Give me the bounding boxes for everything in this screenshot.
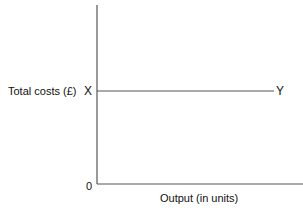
y-axis-label: Total costs (£)	[8, 85, 76, 97]
point-y-label: Y	[276, 85, 284, 97]
x-axis-label: Output (in units)	[160, 192, 238, 204]
point-x-label: X	[84, 85, 92, 97]
chart-canvas	[0, 0, 303, 213]
origin-label: 0	[86, 180, 92, 192]
